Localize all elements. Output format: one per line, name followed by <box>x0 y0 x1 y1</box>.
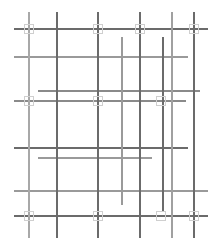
mesh-svg <box>0 0 222 245</box>
canvas-background <box>0 0 222 245</box>
diagram-canvas <box>0 0 222 245</box>
